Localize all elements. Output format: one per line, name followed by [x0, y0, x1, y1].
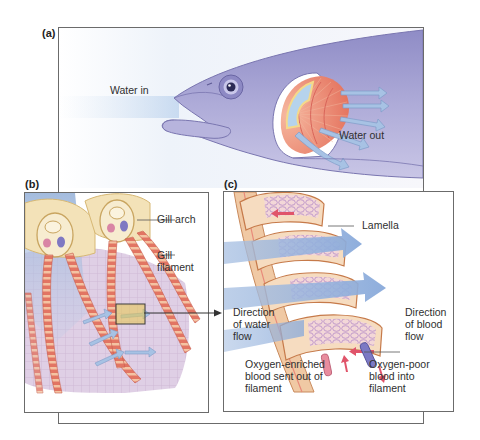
water-in-label: Water in [110, 84, 149, 96]
water-out-label: Water out [339, 129, 384, 141]
panel-a-label: (a) [42, 27, 55, 39]
panel-c-label: (c) [224, 178, 237, 190]
gill-arch-label: Gill arch [157, 213, 196, 225]
gill-filament-label: Gill filament [157, 249, 194, 273]
direction-water-flow-label: Direction of water flow [233, 306, 274, 342]
oxygen-poor-label: Oxygen-poor blood into filament [369, 358, 430, 394]
oxygen-enriched-label: Oxygen-enriched blood sent out of filame… [245, 358, 325, 394]
panel-b [24, 192, 209, 413]
direction-blood-flow-label: Direction of blood flow [405, 306, 446, 342]
panel-b-label: (b) [25, 178, 39, 190]
lamella-label: Lamella [362, 219, 399, 231]
panel-a-illustration [59, 28, 423, 188]
